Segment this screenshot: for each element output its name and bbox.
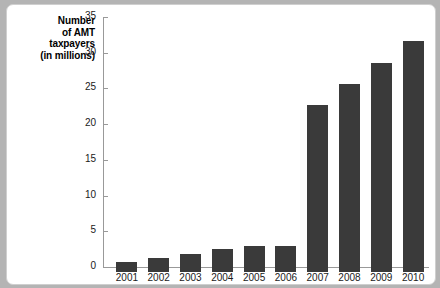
x-axis-tick-label: 2006 [270, 272, 302, 283]
y-axis-tick-label: 30 [85, 46, 96, 57]
bar [116, 262, 137, 272]
x-axis-tick-label: 2003 [175, 272, 207, 283]
bar [371, 63, 392, 272]
y-axis-tick-mark [104, 267, 108, 268]
x-axis-tick-label: 2002 [143, 272, 175, 283]
chart-figure: Number of AMT taxpayers (in millions) 05… [6, 4, 436, 285]
y-axis-tick-mark [104, 53, 108, 54]
x-axis-tick-label: 2004 [206, 272, 238, 283]
bar [148, 258, 169, 272]
y-axis-tick-mark [104, 160, 108, 161]
bar [275, 246, 296, 272]
y-axis-title-line-1: Number [11, 15, 95, 27]
y-axis-tick-mark [104, 124, 108, 125]
bar [307, 105, 328, 272]
bar [244, 246, 265, 272]
x-axis-tick-label: 2008 [334, 272, 366, 283]
y-axis-tick-mark [104, 231, 108, 232]
x-axis-tick-label: 2009 [365, 272, 397, 283]
y-axis-tick-label: 35 [85, 10, 96, 21]
y-axis-tick-label: 0 [90, 260, 96, 271]
y-axis-title-line-3: taxpayers [11, 38, 95, 50]
y-axis-tick-label: 25 [85, 81, 96, 92]
x-axis-tick-label: 2007 [302, 272, 334, 283]
plot-area: 05101520253035 2001200220032004200520062… [103, 17, 429, 273]
bar [180, 254, 201, 272]
y-axis-tick-label: 20 [85, 117, 96, 128]
y-axis-tick-label: 10 [85, 189, 96, 200]
y-axis-tick-mark [104, 88, 108, 89]
y-axis-title-line-4: (in millions) [11, 50, 95, 62]
x-axis-tick-label: 2010 [397, 272, 429, 283]
y-axis-title: Number of AMT taxpayers (in millions) [11, 15, 95, 61]
x-axis-tick-label: 2001 [111, 272, 143, 283]
y-axis-tick-mark [104, 196, 108, 197]
y-axis-tick-label: 5 [90, 224, 96, 235]
bar [403, 41, 424, 272]
x-axis-tick-label: 2005 [238, 272, 270, 283]
y-axis-tick-label: 15 [85, 153, 96, 164]
bar [339, 84, 360, 272]
bar [212, 249, 233, 272]
y-axis-title-line-2: of AMT [11, 27, 95, 39]
y-axis-tick-mark [104, 17, 108, 18]
